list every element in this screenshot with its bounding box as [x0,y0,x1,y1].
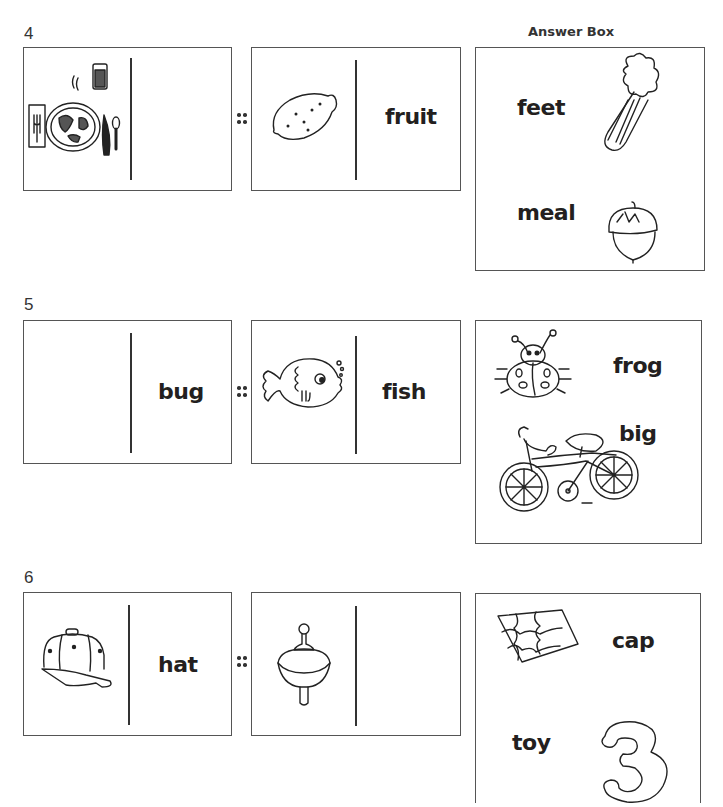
pair-b-word: fish [382,379,426,404]
pair-b-box [251,592,461,736]
answer-word[interactable]: feet [517,95,565,120]
pair-divider [130,58,132,180]
analogy-separator [237,113,247,125]
analogy-separator [237,656,247,668]
pair-b-word: fruit [385,104,437,129]
pair-b-box: fruit [251,47,461,191]
pair-a-box: hat [23,592,232,736]
pair-divider [130,333,132,453]
bicycle-icon[interactable] [496,425,646,519]
lemon-icon [268,90,340,150]
number-three-icon[interactable] [599,720,669,807]
pair-divider [128,605,130,725]
answer-word[interactable]: cap [612,628,654,653]
pair-divider [355,60,357,180]
answer-word[interactable]: toy [512,730,550,755]
puzzle-icon[interactable] [496,608,580,676]
meal-place-setting-icon [26,60,126,154]
pair-a-word: bug [158,379,204,404]
baseball-cap-icon [40,623,120,697]
answer-box: frog big [475,320,702,544]
answer-word[interactable]: meal [517,200,575,225]
answer-word[interactable]: frog [613,353,662,378]
pair-a-box: bug [23,320,232,464]
fish-icon [258,351,348,415]
analogy-separator [237,386,247,398]
pair-divider [355,336,357,454]
answer-box-title: Answer Box [528,24,614,39]
celery-icon[interactable] [598,54,668,158]
ladybug-icon[interactable] [493,329,573,403]
pair-divider [355,606,357,726]
answer-box: cap toy [475,593,701,803]
problem-number: 5 [24,295,33,315]
spinning-top-icon [272,623,336,713]
pair-a-word: hat [158,652,198,677]
pair-b-box: fish [251,320,461,464]
problem-number: 4 [24,24,33,44]
acorn-icon[interactable] [607,200,661,268]
pair-a-box [23,47,232,191]
problem-number: 6 [24,568,33,588]
answer-box: feet meal [475,47,705,271]
